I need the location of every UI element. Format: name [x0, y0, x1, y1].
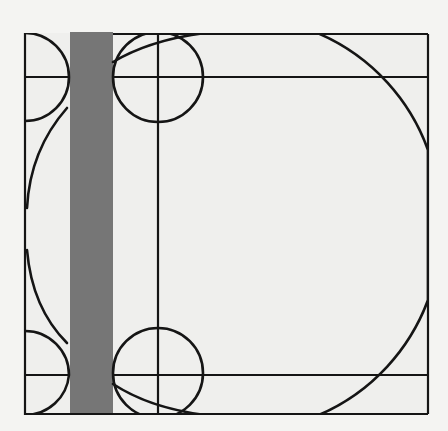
stem-bar [70, 32, 113, 415]
letter-construction-diagram [0, 0, 448, 431]
